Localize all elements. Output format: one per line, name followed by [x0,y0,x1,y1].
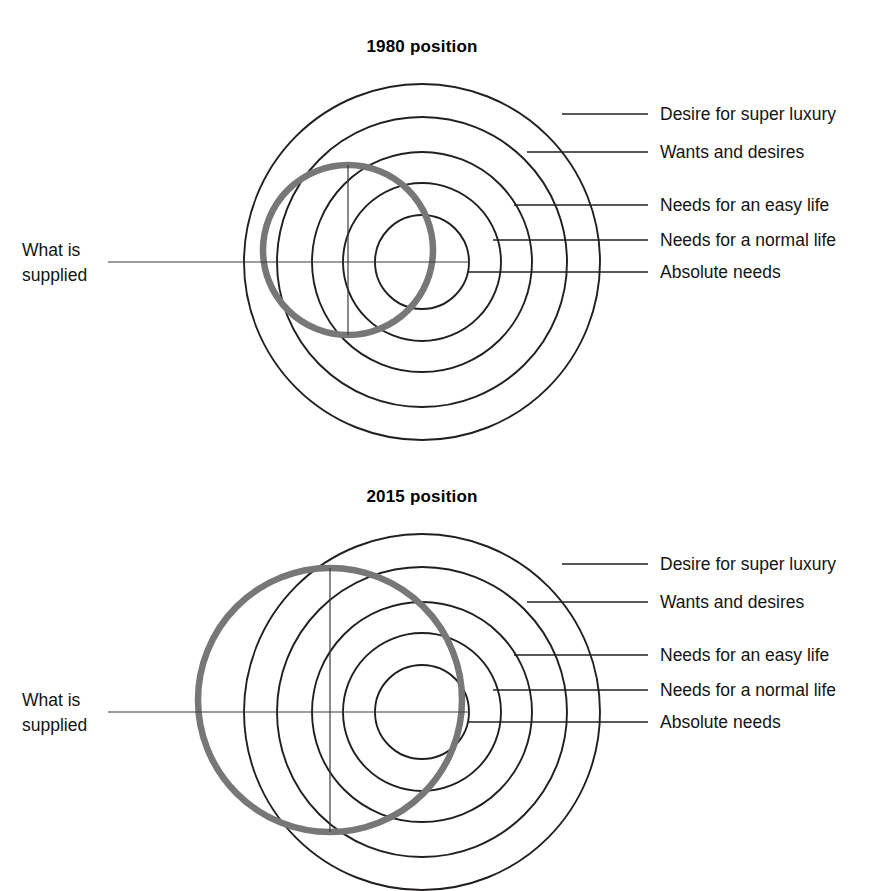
panel-title-1980: 1980 position [366,37,477,56]
ring-label-absolute-needs-2015: Absolute needs [660,712,781,732]
ring-label-desire-for-super-luxury-2015: Desire for super luxury [660,554,836,574]
ring-label-wants-and-desires-2015: Wants and desires [660,592,805,612]
ring-label-desire-for-super-luxury-1980: Desire for super luxury [660,104,836,124]
panel-2015: 2015 position What is supplied Desire fo… [22,487,836,890]
supplied-label-line1-1980: What is [22,240,81,260]
panel-title-2015: 2015 position [366,487,477,506]
supplied-label-line1-2015: What is [22,690,81,710]
needs-diagram-svg: 1980 position What is supplied Desire fo… [0,0,889,891]
panel-1980: 1980 position What is supplied Desire fo… [22,37,836,440]
ring-label-needs-for-a-normal-life-1980: Needs for a normal life [660,230,836,250]
ring-label-absolute-needs-1980: Absolute needs [660,262,781,282]
ring-label-needs-for-an-easy-life-1980: Needs for an easy life [660,195,829,215]
ring-label-needs-for-an-easy-life-2015: Needs for an easy life [660,645,829,665]
needs-diagram-page: 1980 position What is supplied Desire fo… [0,0,889,891]
supplied-label-line2-1980: supplied [22,265,87,285]
supplied-label-line2-2015: supplied [22,715,87,735]
ring-label-needs-for-a-normal-life-2015: Needs for a normal life [660,680,836,700]
ring-label-wants-and-desires-1980: Wants and desires [660,142,805,162]
